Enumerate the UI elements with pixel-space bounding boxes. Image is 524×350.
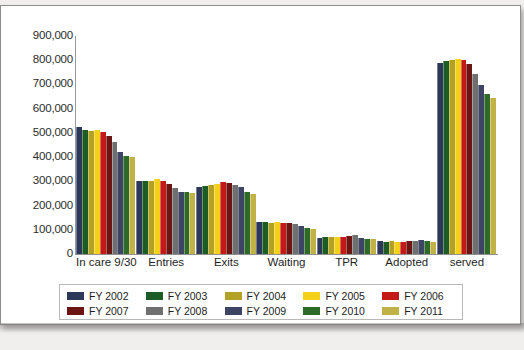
x-axis-label: served xyxy=(437,256,497,268)
legend-item: FY 2005 xyxy=(303,290,379,302)
y-axis-tick-label: 600,000 xyxy=(7,103,73,115)
legend-color-swatch xyxy=(382,307,399,315)
legend-item: FY 2003 xyxy=(146,290,222,302)
bar xyxy=(310,36,316,254)
x-axis-label: Waiting xyxy=(256,256,316,268)
bar-fill xyxy=(250,194,256,254)
y-axis-tick-label: 400,000 xyxy=(7,151,73,163)
page-shadow xyxy=(0,323,524,333)
x-axis-label: TPR xyxy=(317,256,377,268)
legend-label: FY 2003 xyxy=(168,290,208,302)
bar-group xyxy=(256,36,315,254)
bar-group xyxy=(317,36,376,254)
legend-item: FY 2008 xyxy=(146,305,222,317)
bar xyxy=(430,36,436,254)
x-axis-label: Entries xyxy=(136,256,196,268)
y-axis-tick-label: 900,000 xyxy=(7,30,73,42)
legend-item: FY 2009 xyxy=(225,305,301,317)
legend-label: FY 2004 xyxy=(247,290,287,302)
legend-label: FY 2006 xyxy=(404,290,444,302)
legend-label: FY 2011 xyxy=(404,305,443,317)
y-axis-tick-label: 100,000 xyxy=(7,224,73,236)
bar-group xyxy=(196,36,255,254)
y-axis-tick-label: 700,000 xyxy=(7,78,73,90)
bar-fill xyxy=(189,193,195,254)
bar-group xyxy=(437,36,496,254)
legend-item: FY 2002 xyxy=(67,290,143,302)
legend-color-swatch xyxy=(225,292,242,300)
bar xyxy=(370,36,376,254)
bar-fill xyxy=(430,242,436,254)
legend-item: FY 2011 xyxy=(382,305,458,317)
bar xyxy=(129,36,135,254)
bar-group xyxy=(136,36,195,254)
legend-color-swatch xyxy=(146,307,163,315)
legend-color-swatch xyxy=(382,292,399,300)
bar xyxy=(250,36,256,254)
legend-color-swatch xyxy=(225,307,242,315)
legend-label: FY 2005 xyxy=(325,290,365,302)
legend-item: FY 2007 xyxy=(67,305,143,317)
y-axis: 900,000800,000700,000600,000500,000400,0… xyxy=(3,6,73,324)
legend-color-swatch xyxy=(67,292,84,300)
bar-chart: 900,000800,000700,000600,000500,000400,0… xyxy=(1,6,520,324)
bar xyxy=(189,36,195,254)
legend-item: FY 2006 xyxy=(382,290,458,302)
bar-fill xyxy=(490,98,496,254)
x-axis-category-labels: In care 9/30EntriesExitsWaitingTPRAdopte… xyxy=(76,256,497,274)
y-axis-tick-label: 200,000 xyxy=(7,200,73,212)
x-axis-label: Exits xyxy=(196,256,256,268)
legend-color-swatch xyxy=(303,292,320,300)
legend-label: FY 2002 xyxy=(89,290,129,302)
y-axis-tick-label: 800,000 xyxy=(7,54,73,66)
legend-color-swatch xyxy=(303,307,320,315)
legend-color-swatch xyxy=(146,292,163,300)
bar-group xyxy=(76,36,135,254)
bar-fill xyxy=(310,229,316,254)
x-axis-label: In care 9/30 xyxy=(76,256,136,268)
chart-legend: FY 2002FY 2003FY 2004FY 2005FY 2006 FY 2… xyxy=(59,284,463,320)
legend-label: FY 2007 xyxy=(89,305,129,317)
legend-color-swatch xyxy=(67,307,84,315)
bar xyxy=(490,36,496,254)
legend-item: FY 2010 xyxy=(303,305,379,317)
scanned-page: 900,000800,000700,000600,000500,000400,0… xyxy=(0,5,521,325)
legend-label: FY 2009 xyxy=(247,305,287,317)
legend-item: FY 2004 xyxy=(225,290,301,302)
y-axis-tick-label: 300,000 xyxy=(7,175,73,187)
y-axis-tick-label: 500,000 xyxy=(7,127,73,139)
bar-group xyxy=(377,36,436,254)
legend-row-2: FY 2007FY 2008FY 2009FY 2010FY 2011 xyxy=(64,303,458,318)
plot-area xyxy=(76,36,497,254)
x-axis-label: Adopted xyxy=(377,256,437,268)
legend-row-1: FY 2002FY 2003FY 2004FY 2005FY 2006 xyxy=(64,288,458,303)
bar-fill xyxy=(370,239,376,254)
y-axis-tick-label: 0 xyxy=(7,248,73,260)
legend-label: FY 2010 xyxy=(325,305,365,317)
legend-label: FY 2008 xyxy=(168,305,208,317)
x-axis-line xyxy=(75,254,498,255)
bar-fill xyxy=(129,157,135,254)
